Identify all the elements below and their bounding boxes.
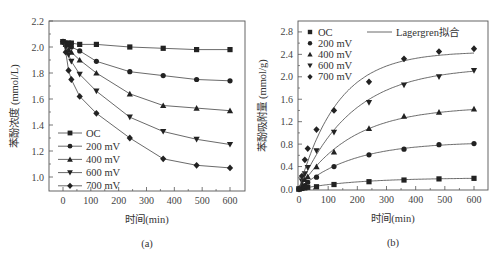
circle-marker [314,175,319,180]
triangle-down-marker [366,100,372,106]
x-tick-label: 500 [437,194,452,205]
circle-marker [161,73,166,78]
square-marker [77,42,82,47]
diamond-marker [436,48,442,55]
square-marker [331,182,336,187]
diamond-marker [160,155,166,162]
triangle-up-marker [313,163,319,169]
fit-legend-label: Lagergren拟合 [396,26,460,38]
triangle-up-marker [307,52,312,57]
y-tick-label: 1.4 [32,120,45,131]
triangle-down-marker [401,83,407,89]
x-tick-label: 0 [61,195,66,206]
square-marker [68,131,73,136]
triangle-up-marker [127,91,133,97]
x-tick-label: 500 [195,195,210,206]
diamond-marker [313,126,319,133]
diamond-marker [302,156,308,163]
x-tick-label: 300 [139,195,154,206]
square-marker [471,176,476,181]
diamond-marker [227,165,233,172]
series-200-mv [60,39,232,83]
circle-marker [436,142,441,147]
circle-marker [94,59,99,64]
legend-label: 200 mV [318,38,353,49]
diamond-marker [307,74,312,80]
circle-marker [227,78,232,83]
circle-marker [77,48,82,53]
y-tick-label: 1.0 [32,172,45,183]
x-tick-label: 600 [467,194,482,205]
square-marker [94,42,99,47]
y-tick-label: 0.8 [281,139,294,150]
legend-label: 200 mV [86,141,121,152]
square-marker [366,179,371,184]
diamond-marker [67,183,73,189]
y-tick-label: 2.4 [281,49,294,60]
x-tick-label: 100 [321,194,336,205]
x-tick-label: 200 [350,194,365,205]
chart-a-concentration: 01002003004005006001.01.21.41.61.82.02.2… [8,16,245,251]
diamond-marker [366,78,372,85]
x-axis-label: 时间(min) [371,212,415,225]
circle-marker [471,141,476,146]
y-tick-label: 0.0 [281,184,294,195]
legend-label: OC [318,27,333,38]
y-tick-label: 1.6 [281,94,294,105]
y-tick-label: 1.8 [32,68,45,79]
y-tick-label: 2.8 [281,26,294,37]
chart-b-adsorption: 01002003004005006000.00.40.81.21.62.02.4… [256,21,488,249]
square-marker [194,47,199,52]
circle-marker [194,77,199,82]
legend-label: 600 mV [318,60,353,71]
legend-label: 600 mV [86,167,121,178]
square-marker [227,47,232,52]
lagergren-fit-curve [299,144,474,189]
caption: (b) [387,237,400,249]
x-tick-label: 300 [379,194,394,205]
square-marker [401,177,406,182]
x-tick-label: 600 [223,195,238,206]
square-marker [127,44,132,49]
legend: OC200 mV400 mV600 mV700 mV [58,128,121,192]
y-tick-label: 1.2 [281,116,294,127]
square-marker [308,30,312,34]
diamond-marker [331,107,337,114]
legend-label: 700 mV [86,180,121,191]
diamond-marker [471,45,477,52]
circle-marker [68,144,73,149]
circle-marker [331,164,336,169]
diamond-marker [68,76,74,83]
triangle-down-marker [93,89,99,95]
caption: (a) [141,238,153,250]
triangle-down-marker [436,74,442,80]
legend: OC200 mV400 mV600 mV700 mVLagergren拟合 [307,26,460,83]
y-tick-label: 2.2 [32,16,45,27]
triangle-down-marker [68,59,74,65]
triangle-up-marker [401,113,407,119]
triangle-up-marker [366,125,372,131]
x-tick-label: 100 [83,195,98,206]
triangle-up-marker [471,106,477,112]
triangle-down-marker [471,68,477,74]
legend-label: 400 mV [86,154,121,165]
triangle-down-marker [307,63,312,68]
x-tick-label: 0 [297,194,302,205]
y-tick-label: 1.2 [32,146,45,157]
circle-marker [127,69,132,74]
series-600-mv [296,68,477,192]
circle-marker [401,147,406,152]
square-marker [161,46,166,51]
y-tick-label: 1.6 [32,94,45,105]
series-200-mv [296,141,476,192]
diamond-marker [127,135,133,142]
legend-label: 400 mV [318,49,353,60]
x-tick-label: 200 [111,195,126,206]
lagergren-fit-curve [299,71,474,189]
circle-marker [366,152,371,157]
legend-label: OC [86,128,101,139]
diamond-marker [193,162,199,169]
y-axis-label: 苯酚吸附量 (mmol/g) [256,59,269,152]
x-axis-label: 时间(min) [125,213,169,226]
x-tick-label: 400 [408,194,423,205]
